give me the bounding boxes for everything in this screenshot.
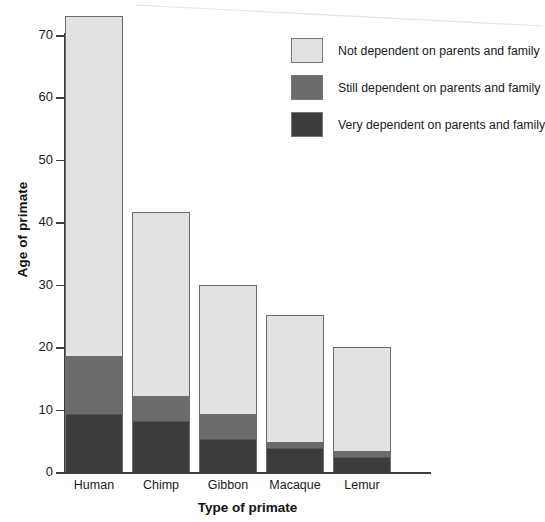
legend-swatch [291, 112, 323, 137]
bar-stack[interactable] [333, 347, 391, 472]
bar-segment[interactable] [267, 448, 323, 473]
bar-stack[interactable] [266, 315, 324, 472]
bar-group[interactable]: Gibbon [199, 0, 257, 522]
x-axis-category-label: Human [65, 478, 123, 492]
legend-item[interactable]: Still dependent on parents and family [291, 69, 537, 106]
bar-group[interactable]: Chimp [132, 0, 190, 522]
legend-item[interactable]: Very dependent on parents and family [291, 106, 537, 143]
legend-swatch [291, 38, 323, 63]
bar-segment[interactable] [133, 396, 189, 421]
bar-segment[interactable] [133, 421, 189, 473]
bar-stack[interactable] [199, 285, 257, 472]
legend-label: Still dependent on parents and family [338, 81, 540, 95]
x-axis-category-label: Gibbon [199, 478, 257, 492]
bar-segment[interactable] [200, 414, 256, 439]
y-axis-tick-label: 70 [13, 28, 53, 41]
bar-segment[interactable] [267, 316, 323, 442]
bar-segment[interactable] [66, 17, 122, 356]
legend-label: Very dependent on parents and family [338, 118, 545, 132]
bar-segment[interactable] [200, 286, 256, 415]
y-axis-tick-label: 60 [13, 90, 53, 103]
legend-item[interactable]: Not dependent on parents and family [291, 32, 537, 69]
bar-segment[interactable] [334, 457, 390, 473]
legend-label: Not dependent on parents and family [338, 44, 540, 58]
bar-stack[interactable] [132, 212, 190, 472]
y-axis-tick-label: 20 [13, 340, 53, 353]
bar-segment[interactable] [66, 356, 122, 413]
bar-segment[interactable] [133, 213, 189, 397]
bar-segment[interactable] [334, 451, 390, 458]
x-axis-category-label: Lemur [333, 478, 391, 492]
bar-segment[interactable] [334, 348, 390, 450]
bar-segment[interactable] [200, 439, 256, 473]
x-axis-category-label: Chimp [132, 478, 190, 492]
y-axis-tick-label: 10 [13, 403, 53, 416]
x-axis-category-label: Macaque [266, 478, 324, 492]
bar-stack[interactable] [65, 16, 123, 472]
legend-swatch [291, 75, 323, 100]
chart-legend: Not dependent on parents and familyStill… [291, 32, 537, 143]
y-axis-title: Age of primate [15, 150, 30, 310]
bar-segment[interactable] [66, 414, 122, 473]
y-axis-tick-label: 0 [13, 465, 53, 478]
bar-group[interactable]: Human [65, 0, 123, 522]
